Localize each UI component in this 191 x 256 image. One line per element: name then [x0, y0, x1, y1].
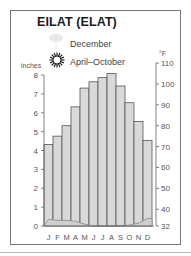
svg-text:S: S [118, 233, 123, 242]
svg-text:J: J [92, 233, 96, 242]
bottom-divider [0, 252, 191, 253]
svg-text:7: 7 [34, 90, 39, 99]
temperature-bar [116, 86, 125, 226]
rain-cloud-icon [49, 34, 63, 56]
temperature-bar [107, 73, 116, 226]
svg-text:32: 32 [161, 222, 170, 231]
svg-text:2: 2 [34, 184, 39, 193]
svg-text:A: A [73, 233, 78, 242]
temperature-bar [71, 107, 80, 226]
svg-text:N: N [136, 233, 141, 242]
svg-text:J: J [47, 233, 51, 242]
svg-text:1: 1 [34, 203, 39, 212]
temperature-bar [80, 88, 89, 226]
svg-text:O: O [127, 233, 133, 242]
svg-text:60: 60 [161, 163, 170, 172]
svg-text:M: M [63, 233, 69, 242]
temperature-bar [143, 140, 152, 226]
svg-text:50: 50 [161, 184, 170, 193]
svg-text:0: 0 [34, 222, 39, 231]
svg-text:M: M [81, 233, 87, 242]
svg-text:6: 6 [34, 109, 39, 118]
svg-text:J: J [101, 233, 105, 242]
svg-text:110: 110 [161, 59, 174, 68]
svg-text:8: 8 [34, 71, 39, 80]
svg-text:F: F [55, 233, 60, 242]
svg-text:90: 90 [161, 101, 170, 110]
temperature-bar [98, 78, 107, 226]
temperature-bars [44, 73, 152, 226]
svg-text:100: 100 [161, 80, 175, 89]
temperature-bar [125, 103, 134, 226]
svg-text:3: 3 [34, 165, 39, 174]
sun-icon [50, 53, 65, 68]
svg-text:70: 70 [161, 143, 170, 152]
temperature-bar [134, 122, 143, 226]
temperature-bar [44, 145, 53, 227]
svg-text:A: A [109, 233, 114, 242]
temperature-bar [53, 136, 62, 226]
svg-text:4: 4 [34, 147, 39, 156]
climate-chart: 01234567832405060708090100110JFMAMJJASON… [0, 0, 191, 256]
svg-text:40: 40 [161, 205, 170, 214]
temperature-bar [89, 82, 98, 226]
svg-text:5: 5 [34, 128, 39, 137]
temperature-bar [62, 126, 71, 226]
svg-text:D: D [145, 233, 151, 242]
svg-text:80: 80 [161, 122, 170, 131]
